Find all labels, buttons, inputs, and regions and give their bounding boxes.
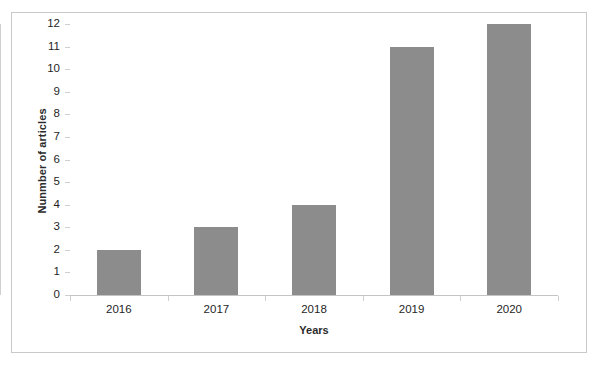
y-tick-label: 12 bbox=[38, 18, 60, 30]
y-tick-mark bbox=[65, 137, 70, 138]
y-tick-mark bbox=[65, 205, 70, 206]
y-tick-mark bbox=[65, 47, 70, 48]
x-tick-label: 2017 bbox=[171, 303, 261, 315]
y-tick-mark bbox=[65, 69, 70, 70]
x-tick-label: 2019 bbox=[367, 303, 457, 315]
chart-figure: Nunmber of articles 1211109876543210 201… bbox=[0, 0, 598, 367]
x-tick-mark bbox=[70, 296, 71, 301]
y-tick-label: 7 bbox=[38, 131, 60, 143]
x-tick-label: 2018 bbox=[269, 303, 359, 315]
bar bbox=[390, 47, 434, 295]
y-tick-label: 10 bbox=[38, 63, 60, 75]
y-tick-label: 3 bbox=[38, 221, 60, 233]
y-axis-line bbox=[0, 24, 1, 295]
bar bbox=[97, 250, 141, 295]
y-tick-mark bbox=[65, 250, 70, 251]
y-tick-mark bbox=[65, 114, 70, 115]
y-tick-label: 8 bbox=[38, 108, 60, 120]
y-tick-label: 6 bbox=[38, 154, 60, 166]
y-tick-mark bbox=[65, 160, 70, 161]
x-tick-label: 2020 bbox=[464, 303, 554, 315]
y-tick-mark bbox=[65, 227, 70, 228]
x-axis-line bbox=[70, 295, 558, 296]
x-tick-mark bbox=[265, 296, 266, 301]
y-tick-label: 1 bbox=[38, 266, 60, 278]
bar bbox=[292, 205, 336, 295]
y-tick-mark bbox=[65, 24, 70, 25]
y-tick-mark bbox=[65, 182, 70, 183]
y-tick-label: 4 bbox=[38, 199, 60, 211]
y-tick-mark bbox=[65, 272, 70, 273]
y-tick-label: 5 bbox=[38, 176, 60, 188]
x-tick-label: 2016 bbox=[74, 303, 164, 315]
y-tick-label: 2 bbox=[38, 244, 60, 256]
bar bbox=[194, 227, 238, 295]
y-tick-mark bbox=[65, 92, 70, 93]
x-tick-mark bbox=[558, 296, 559, 301]
y-tick-label: 9 bbox=[38, 86, 60, 98]
y-tick-label: 11 bbox=[38, 41, 60, 53]
bar bbox=[487, 24, 531, 295]
y-tick-label: 0 bbox=[38, 289, 60, 301]
x-tick-mark bbox=[168, 296, 169, 301]
x-tick-mark bbox=[363, 296, 364, 301]
x-tick-mark bbox=[460, 296, 461, 301]
x-axis-title: Years bbox=[70, 324, 558, 336]
